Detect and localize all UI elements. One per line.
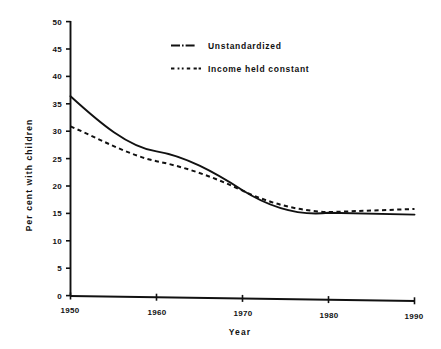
- x-tick-label: 1980: [320, 311, 339, 320]
- x-tick-label: 1960: [148, 308, 167, 317]
- y-tick-label: 50: [53, 18, 63, 27]
- y-tick-label: 10: [53, 237, 63, 246]
- chart-figure: 50 45 40 35 30 25 20 15 10 5 0 1950 1960…: [0, 0, 441, 349]
- x-tick-label: 1970: [234, 309, 253, 318]
- legend-label-unstandardized: Unstandardized: [208, 41, 282, 51]
- y-tick-label: 25: [53, 155, 63, 164]
- y-axis-title: Per cent with children: [24, 119, 34, 232]
- x-axis-title: Year: [229, 327, 251, 337]
- y-tick-label: 35: [53, 100, 63, 109]
- x-tick-label: 1990: [405, 312, 424, 321]
- y-tick-label: 5: [57, 264, 62, 273]
- chart-background: [0, 0, 441, 349]
- y-tick-label: 0: [57, 292, 62, 301]
- y-tick-label: 15: [53, 209, 63, 218]
- y-tick-label: 20: [53, 182, 63, 191]
- legend-label-income-held-constant: Income held constant: [208, 64, 309, 74]
- y-tick-label: 30: [53, 127, 63, 136]
- x-tick-label: 1950: [61, 306, 80, 315]
- chart-svg: 50 45 40 35 30 25 20 15 10 5 0 1950 1960…: [0, 0, 441, 349]
- y-tick-label: 45: [53, 45, 63, 54]
- y-tick-label: 40: [53, 72, 63, 81]
